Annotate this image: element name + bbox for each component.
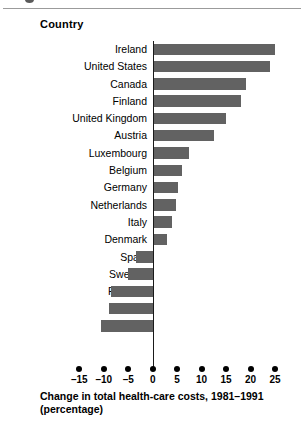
bar-canada — [153, 78, 246, 90]
bar-netherlands — [153, 199, 176, 211]
bar-denmark — [153, 234, 168, 246]
category-label: Netherlands — [17, 198, 147, 212]
x-tick-label: 25 — [255, 374, 295, 385]
category-label: Germany — [17, 180, 147, 194]
category-label: Finland — [17, 94, 147, 108]
bar-portugal — [111, 286, 153, 298]
bar-united-states — [153, 61, 270, 73]
x-tick-dot — [125, 366, 131, 372]
category-label: United States — [17, 59, 147, 73]
x-tick-dot — [76, 366, 82, 372]
category-label: Canada — [17, 77, 147, 91]
bar-belgium — [153, 165, 182, 177]
x-axis-title: Change in total health-care costs, 1981–… — [40, 390, 302, 416]
x-tick-dot — [174, 366, 180, 372]
bar-austria — [153, 130, 214, 142]
x-tick-dot — [150, 366, 156, 372]
bar-luxembourg — [153, 147, 190, 159]
category-label: Italy — [17, 215, 147, 229]
bar-germany — [153, 182, 178, 194]
bar-greece — [109, 303, 153, 315]
bar-finland — [153, 95, 241, 107]
column-header-country: Country — [40, 18, 84, 30]
x-tick-dot — [101, 366, 107, 372]
category-label: United Kingdom — [17, 111, 147, 125]
bar-united-kingdom — [153, 113, 226, 125]
x-axis-title-line1: Change in total health-care costs, 1981–… — [40, 390, 302, 403]
bar-sweden — [128, 268, 152, 280]
x-axis: –15–10–50510152025 — [0, 366, 306, 380]
category-label: Austria — [17, 128, 147, 142]
x-tick-dot — [272, 366, 278, 372]
x-axis-title-line2: (percentage) — [40, 403, 302, 416]
category-label: Denmark — [17, 232, 147, 246]
page-bullet-icon — [25, 0, 34, 3]
x-tick-dot — [248, 366, 254, 372]
category-label: Belgium — [17, 163, 147, 177]
header-divider — [3, 8, 301, 9]
x-tick-dot — [223, 366, 229, 372]
category-label: Ireland — [17, 42, 147, 56]
bar-spain — [136, 251, 153, 263]
chart-page: Country IrelandUnited StatesCanadaFinlan… — [0, 0, 306, 424]
bar-france — [101, 320, 152, 332]
x-tick-dot — [199, 366, 205, 372]
zero-axis-line — [153, 41, 154, 371]
category-label: Spain — [17, 250, 147, 264]
category-label: Luxembourg — [17, 146, 147, 160]
bar-ireland — [153, 44, 275, 56]
bar-italy — [153, 216, 173, 228]
